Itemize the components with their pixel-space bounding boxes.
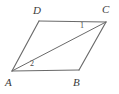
angle-mark-1: 1 (80, 22, 84, 30)
angle-mark-2: 2 (30, 60, 34, 68)
vertex-label-b: B (73, 77, 80, 88)
vertex-label-c: C (102, 4, 109, 15)
edges-group (12, 21, 106, 71)
side-dc-line (39, 21, 106, 22)
vertex-label-a: A (5, 77, 12, 88)
geometry-figure: D C A B 1 2 (0, 0, 119, 94)
vertex-label-d: D (33, 5, 41, 16)
side-ba-line (12, 70, 79, 71)
